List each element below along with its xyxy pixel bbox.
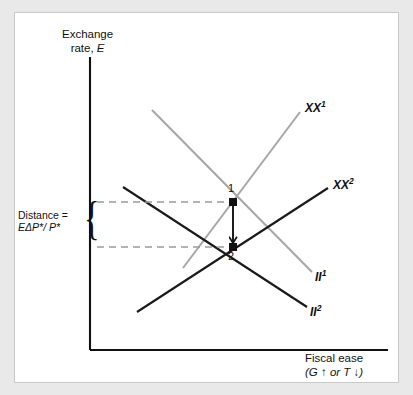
y-axis-label-line2: rate, bbox=[71, 42, 97, 54]
equilibrium-point-1-marker bbox=[229, 198, 237, 206]
distance-brace: { bbox=[84, 196, 99, 242]
curve-label-xx1-base: XX bbox=[305, 101, 321, 115]
x-axis-label: Fiscal ease (G ↑ or T ↓) bbox=[305, 352, 363, 379]
curve-label-ii2: II2 bbox=[310, 303, 321, 319]
equilibrium-point-2-label: 2 bbox=[228, 250, 234, 263]
y-axis-label-line1: Exchange bbox=[62, 28, 113, 40]
equilibrium-point-1-label: 1 bbox=[228, 182, 234, 195]
curve-label-xx1: XX1 bbox=[305, 99, 326, 115]
curve-label-ii2-base: II bbox=[310, 305, 317, 319]
curve-label-ii1-base: II bbox=[315, 270, 322, 284]
curve-label-xx1-sup: 1 bbox=[321, 99, 326, 109]
curve-label-ii1-sup: 1 bbox=[322, 268, 327, 278]
curve-label-xx2-base: XX bbox=[333, 178, 349, 192]
distance-annotation: Distance = EΔP*/ P* bbox=[18, 209, 68, 234]
curve-label-xx2: XX2 bbox=[333, 176, 354, 192]
x-axis-label-line2: (G ↑ or T ↓) bbox=[305, 366, 363, 378]
curve-label-ii2-sup: 2 bbox=[317, 303, 322, 313]
distance-annotation-line2: EΔP*/ P* bbox=[18, 221, 60, 233]
figure-container: Exchange rate, E Fiscal ease (G ↑ or T ↓… bbox=[0, 0, 413, 395]
y-axis-label: Exchange rate, E bbox=[62, 28, 113, 55]
x-axis-label-line1: Fiscal ease bbox=[305, 352, 363, 364]
curve-label-ii1: II1 bbox=[315, 268, 326, 284]
diagram-canvas bbox=[0, 0, 413, 395]
distance-annotation-line1: Distance = bbox=[18, 209, 68, 221]
curve-label-xx2-sup: 2 bbox=[349, 176, 354, 186]
y-axis-label-symbol: E bbox=[97, 42, 105, 54]
